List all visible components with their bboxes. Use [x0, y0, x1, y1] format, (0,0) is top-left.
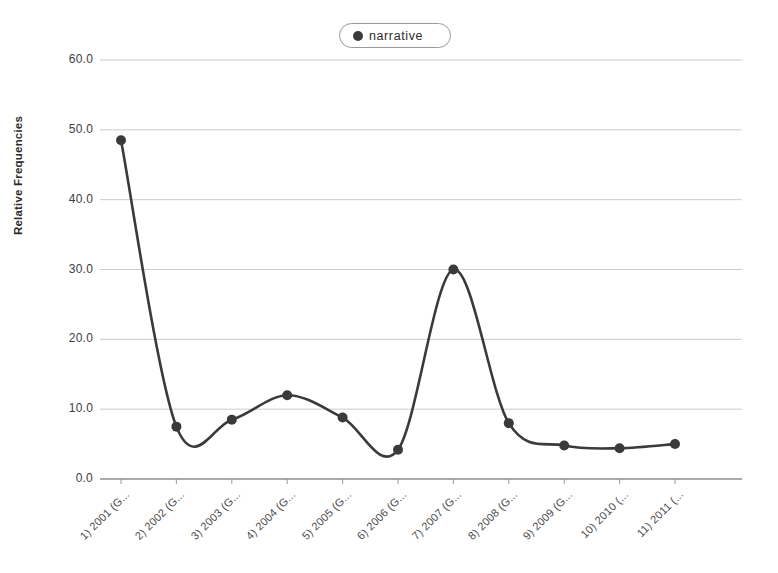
- line-chart: narrative Relative Frequencies 60.050.04…: [0, 0, 778, 573]
- data-point-marker: [448, 265, 458, 275]
- y-tick-label: 60.0: [45, 52, 93, 66]
- x-tick-marks: [121, 479, 675, 484]
- data-point-marker: [338, 413, 348, 423]
- y-tick-label: 0.0: [45, 471, 93, 485]
- data-point-marker: [615, 443, 625, 453]
- data-point-marker: [504, 418, 514, 428]
- gridlines: [100, 60, 742, 479]
- data-point-marker: [393, 445, 403, 455]
- y-tick-label: 50.0: [45, 122, 93, 136]
- data-point-marker: [227, 415, 237, 425]
- plot-area: [0, 0, 778, 573]
- data-point-marker: [282, 390, 292, 400]
- data-point-marker: [559, 440, 569, 450]
- data-point-marker: [116, 135, 126, 145]
- y-tick-label: 40.0: [45, 192, 93, 206]
- y-tick-label: 10.0: [45, 401, 93, 415]
- data-point-marker: [171, 422, 181, 432]
- y-tick-label: 30.0: [45, 262, 93, 276]
- data-point-marker: [670, 439, 680, 449]
- y-tick-label: 20.0: [45, 331, 93, 345]
- series-markers-narrative: [116, 135, 680, 454]
